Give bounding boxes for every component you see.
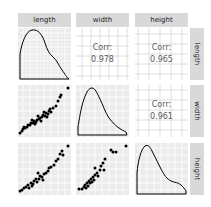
- density-height: [135, 143, 188, 195]
- strip-length: length: [18, 13, 71, 27]
- strip-right-height-label: height: [193, 158, 201, 180]
- scatter-height-length: [18, 143, 71, 195]
- strip-right-height: height: [190, 143, 204, 195]
- strip-height: height: [135, 13, 188, 27]
- density-length: [18, 28, 71, 80]
- strip-right-length: length: [190, 28, 204, 80]
- corr-value: 0.965: [135, 54, 188, 65]
- corr-label: Corr:: [135, 99, 188, 110]
- corr-label: Corr:: [76, 42, 129, 53]
- corr-label: Corr:: [135, 42, 188, 53]
- strip-right-width: width: [190, 85, 204, 137]
- corr-length-height: Corr: 0.965: [135, 28, 188, 80]
- strip-right-width-label: width: [193, 101, 201, 120]
- corr-width-height: Corr: 0.961: [135, 85, 188, 137]
- corr-value: 0.961: [135, 111, 188, 122]
- density-width: [76, 85, 129, 137]
- scatter-width-length: [18, 85, 71, 137]
- corr-value: 0.978: [76, 54, 129, 65]
- strip-right-length-label: length: [193, 43, 201, 65]
- scatter-height-width: [76, 143, 129, 195]
- strip-width: width: [76, 13, 129, 27]
- corr-length-width: Corr: 0.978: [76, 28, 129, 80]
